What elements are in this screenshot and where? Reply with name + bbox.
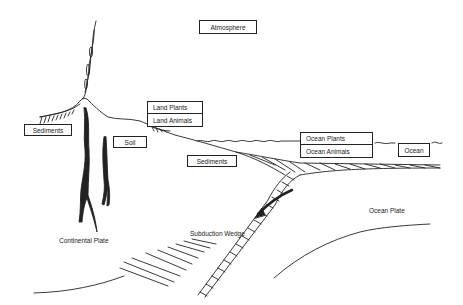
ocean-plate-label: Ocean Plate <box>369 207 405 214</box>
continental-roots <box>79 108 110 232</box>
ocean-animals-box: Ocean Animals <box>300 144 373 158</box>
land-animals-box: Land Animals <box>147 113 203 127</box>
ocean-plate-curve <box>274 224 430 278</box>
soil-box: Soil <box>113 136 147 148</box>
sediments-left-box: Sediments <box>24 124 72 136</box>
volcano-plume <box>83 21 96 99</box>
atmosphere-box: Atmosphere <box>199 20 257 34</box>
diagram-canvas <box>0 0 463 305</box>
subduction-arrow-icon <box>255 190 292 218</box>
continental-plate-curve <box>34 276 124 293</box>
ocean-box: Ocean <box>398 143 430 157</box>
continental-plate-label: Continental Plate <box>59 237 109 244</box>
sediments-middle-box: Sediments <box>187 155 237 167</box>
subduction-wedge-label: Subduction Wedge <box>190 230 245 237</box>
